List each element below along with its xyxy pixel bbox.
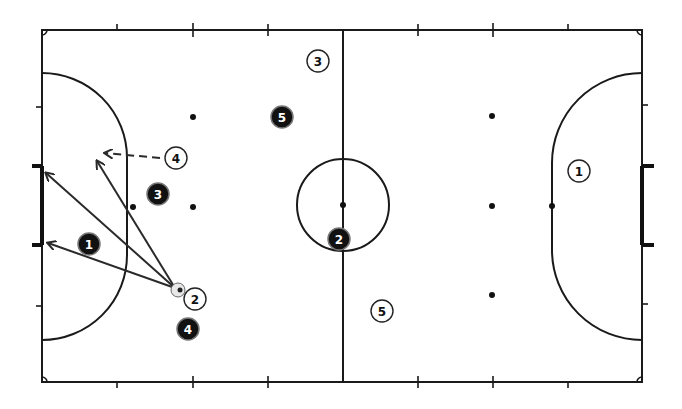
svg-text:5: 5 bbox=[278, 111, 286, 125]
left-goal bbox=[32, 166, 42, 245]
right-penalty-spot bbox=[549, 203, 555, 209]
svg-text:2: 2 bbox=[191, 293, 199, 307]
black-player-1[interactable]: 1 bbox=[78, 233, 100, 255]
svg-text:1: 1 bbox=[85, 238, 93, 252]
black-player-3[interactable]: 3 bbox=[147, 183, 169, 205]
svg-text:1: 1 bbox=[575, 165, 583, 179]
white-player-5[interactable]: 5 bbox=[371, 300, 393, 322]
svg-text:2: 2 bbox=[335, 233, 343, 247]
white-player-2[interactable]: 2 bbox=[184, 288, 206, 310]
movement-arrow-player-4 bbox=[105, 153, 160, 158]
svg-text:4: 4 bbox=[172, 152, 180, 166]
pass-arrow-to-area bbox=[97, 161, 175, 288]
left-second-penalty-spot bbox=[190, 204, 196, 210]
left-penalty-spot bbox=[130, 204, 136, 210]
right-goal bbox=[642, 166, 654, 245]
svg-text:5: 5 bbox=[378, 305, 386, 319]
right-spot-bottom bbox=[489, 292, 495, 298]
white-player-4[interactable]: 4 bbox=[165, 147, 187, 169]
white-player-1[interactable]: 1 bbox=[568, 160, 590, 182]
black-player-2[interactable]: 2 bbox=[328, 228, 350, 250]
black-player-4[interactable]: 4 bbox=[177, 318, 199, 340]
left-spot-top bbox=[190, 114, 196, 120]
ball bbox=[171, 283, 185, 297]
right-penalty-area bbox=[552, 73, 642, 340]
svg-text:3: 3 bbox=[314, 55, 322, 69]
right-spot-top bbox=[489, 113, 495, 119]
right-second-penalty-spot bbox=[489, 203, 495, 209]
center-spot bbox=[340, 202, 346, 208]
svg-text:3: 3 bbox=[154, 188, 162, 202]
white-player-3[interactable]: 3 bbox=[307, 50, 329, 72]
futsal-court: 1 2 3 4 5 1 2 3 4 5 bbox=[0, 0, 682, 409]
pass-arrow-to-bottom-post bbox=[48, 243, 175, 288]
black-player-5[interactable]: 5 bbox=[271, 106, 293, 128]
svg-text:4: 4 bbox=[184, 323, 192, 337]
